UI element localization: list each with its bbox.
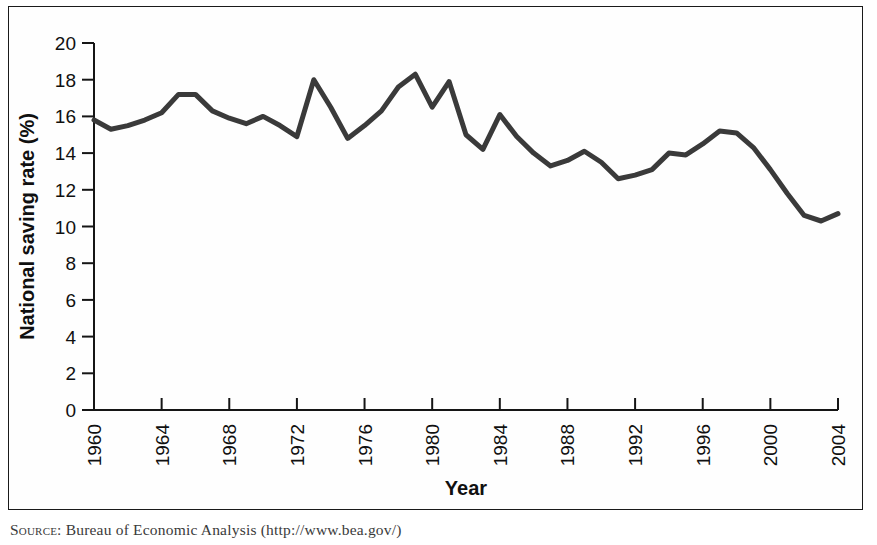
y-tick-label-18: 18 [55,70,76,91]
x-tick-label-1992: 1992 [625,424,646,466]
source-note: Source: Bureau of Economic Analysis (htt… [10,521,870,539]
y-tick-label-2: 2 [65,363,76,384]
x-tick-label-1972: 1972 [287,424,308,466]
y-tick-label-8: 8 [65,253,76,274]
y-tick-label-12: 12 [55,180,76,201]
x-tick-label-1968: 1968 [219,424,240,466]
x-tick-label-1988: 1988 [557,424,578,466]
y-tick-label-20: 20 [55,33,76,54]
x-tick-label-2000: 2000 [760,424,781,466]
source-label: Source: [10,521,62,538]
x-tick-label-1996: 1996 [693,424,714,466]
y-tick-label-10: 10 [55,217,76,238]
x-tick-label-1976: 1976 [355,424,376,466]
x-tick-label-2004: 2004 [828,424,849,467]
source-value: Bureau of Economic Analysis (http://www.… [62,521,402,538]
y-tick-label-6: 6 [65,290,76,311]
data-line-national-saving-rate [94,74,838,221]
x-tick-label-1960: 1960 [84,424,105,466]
y-tick-label-4: 4 [65,327,76,348]
y-tick-label-14: 14 [55,143,77,164]
x-tick-label-1964: 1964 [152,424,173,467]
figure-container: 0246810121416182019601964196819721976198… [0,0,877,545]
line-chart: 0246810121416182019601964196819721976198… [0,0,877,545]
y-tick-label-0: 0 [65,400,76,421]
x-axis-title: Year [445,477,487,499]
y-axis-title: National saving rate (%) [16,113,38,340]
y-tick-label-16: 16 [55,106,76,127]
x-tick-label-1980: 1980 [422,424,443,466]
x-tick-label-1984: 1984 [490,424,511,467]
